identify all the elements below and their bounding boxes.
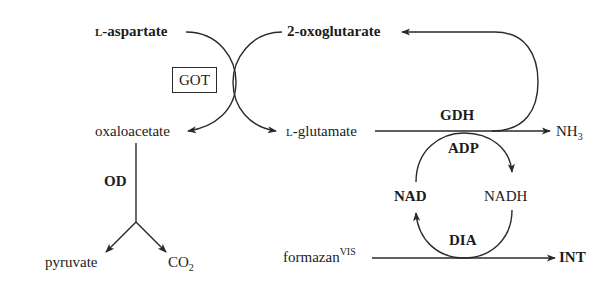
label-adp: ADP [448, 141, 479, 156]
label-2-oxoglutarate: 2-oxoglutarate [287, 24, 380, 39]
aspartate-name: -aspartate [102, 23, 167, 39]
label-nadh: NADH [484, 189, 527, 204]
arrow-oxoglutarate-to-glutamate [233, 32, 282, 131]
co2-sub: 2 [189, 262, 194, 273]
reaction-arrows [0, 0, 615, 288]
co2-main: CO [168, 254, 189, 270]
label-l-aspartate: L-aspartate [95, 24, 167, 39]
label-pyruvate: pyruvate [45, 255, 97, 270]
label-l-glutamate: L-glutamate [286, 124, 357, 139]
nh3-sub: 3 [578, 131, 583, 142]
label-oxaloacetate: oxaloacetate [95, 124, 170, 139]
nh3-main: NH [556, 123, 578, 139]
enzyme-label-dia: DIA [449, 233, 477, 248]
arrow-to-pyruvate [106, 222, 136, 252]
label-formazan: formazanVIS [283, 250, 356, 265]
label-co2: CO2 [168, 255, 194, 270]
label-int: INT [559, 250, 586, 265]
enzyme-box-got: GOT [172, 67, 217, 93]
label-nad: NAD [394, 189, 427, 204]
arrow-to-co2 [136, 222, 166, 252]
label-nh3: NH3 [556, 124, 583, 139]
l-prefix: L [286, 126, 293, 138]
enzyme-label-gdh: GDH [440, 108, 474, 123]
enzyme-label-od: OD [104, 174, 127, 189]
glutamate-name: -glutamate [293, 123, 357, 139]
formazan-sup: VIS [340, 246, 356, 257]
formazan-main: formazan [283, 249, 340, 265]
